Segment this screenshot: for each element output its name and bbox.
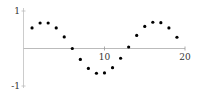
- data-point: [159, 21, 162, 24]
- data-point: [167, 26, 170, 29]
- data-point: [151, 21, 154, 24]
- data-point: [47, 21, 50, 24]
- data-point: [79, 58, 82, 61]
- x-tick-label: 10: [99, 52, 111, 62]
- data-point: [135, 34, 138, 37]
- data-point: [143, 25, 146, 28]
- x-tick-label: 20: [179, 52, 191, 62]
- data-point: [127, 45, 130, 48]
- data-point: [103, 71, 106, 74]
- data-point: [111, 66, 114, 69]
- data-point: [71, 47, 74, 50]
- data-point: [63, 35, 66, 38]
- y-tick-label: -1: [11, 81, 20, 91]
- data-point: [30, 26, 33, 29]
- data-point: [119, 57, 122, 60]
- y-tick-label: 1: [14, 6, 20, 16]
- data-point: [175, 36, 178, 39]
- data-point: [55, 26, 58, 29]
- data-point: [95, 72, 98, 75]
- scatter-chart: 10201-1: [0, 0, 198, 93]
- data-point: [39, 21, 42, 24]
- data-point: [87, 67, 90, 70]
